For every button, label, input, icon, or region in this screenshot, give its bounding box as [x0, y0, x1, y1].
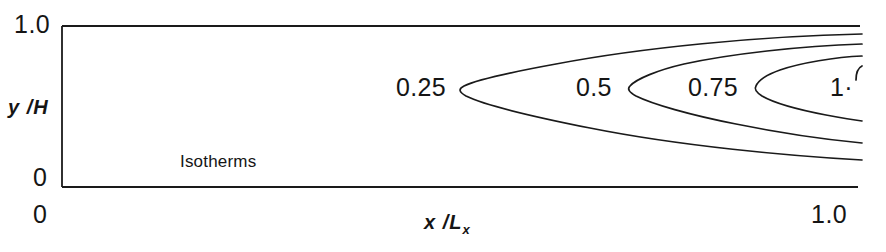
contour-path-1.0 [856, 66, 862, 80]
x-axis-label: x /Lx [424, 212, 470, 236]
contour-label-1.0: 1· [830, 75, 853, 100]
y-axis-label: y /H [8, 97, 49, 117]
contour-path-0.25 [460, 34, 862, 160]
contour-curves [460, 34, 862, 160]
isotherm-contour-figure: 1.0 0 0 1.0 y /H x /Lx 0.25 0.5 0.75 1· … [0, 0, 886, 252]
x-axis-label-main: x /L [424, 211, 462, 233]
x-axis-label-subscript: x [462, 222, 469, 237]
contour-label-0.25: 0.25 [396, 75, 446, 100]
x-axis-tick-left: 0 [33, 202, 47, 227]
y-axis-tick-bottom: 0 [33, 165, 47, 190]
plot-annotation-isotherms: Isotherms [180, 153, 256, 170]
contour-label-0.5: 0.5 [576, 75, 612, 100]
contour-label-0.75: 0.75 [688, 75, 738, 100]
x-axis-tick-right: 1.0 [811, 202, 847, 227]
y-axis-tick-top: 1.0 [14, 12, 50, 37]
